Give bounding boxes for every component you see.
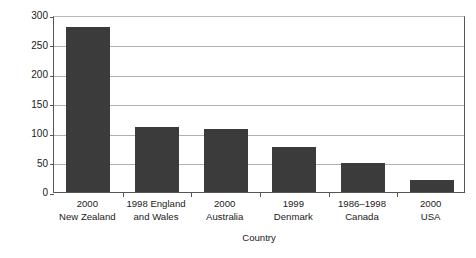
bar[interactable] bbox=[341, 163, 385, 193]
x-axis-tick-mark bbox=[123, 192, 124, 197]
y-axis-tick-label: 250 bbox=[22, 41, 48, 51]
x-axis-category-label-country: and Wales bbox=[122, 211, 191, 224]
plot-area bbox=[53, 16, 465, 193]
x-axis-category-label: 1999Denmark bbox=[259, 198, 328, 223]
x-axis-category-label-year: 1998 England bbox=[122, 198, 191, 211]
y-axis-tick-label: 200 bbox=[22, 70, 48, 80]
x-axis-title: Country bbox=[53, 232, 465, 243]
bar[interactable] bbox=[410, 180, 454, 192]
bar[interactable] bbox=[204, 129, 248, 192]
y-axis-tick-mark bbox=[50, 194, 54, 195]
bar-chart-figure: Rate /100,000 050100150200250300 2000New… bbox=[0, 0, 476, 258]
x-axis-category-label-country: Australia bbox=[190, 211, 259, 224]
y-axis-tick-label: 100 bbox=[22, 129, 48, 139]
x-axis-category-label-country: USA bbox=[396, 211, 465, 224]
bar[interactable] bbox=[135, 127, 179, 192]
x-axis-category-label: 2000USA bbox=[396, 198, 465, 223]
y-axis-tick-label: 0 bbox=[22, 188, 48, 198]
x-axis-category-label: 1986–1998Canada bbox=[328, 198, 397, 223]
bar[interactable] bbox=[66, 27, 110, 192]
x-axis-category-label-year: 1999 bbox=[259, 198, 328, 211]
x-axis-category-label-year: 2000 bbox=[396, 198, 465, 211]
y-axis-tick-label: 300 bbox=[22, 11, 48, 21]
y-axis-tick-labels: 050100150200250300 bbox=[14, 0, 48, 258]
bar-series bbox=[54, 17, 464, 192]
x-axis-category-label-country: New Zealand bbox=[53, 211, 122, 224]
x-axis-category-label-year: 1986–1998 bbox=[328, 198, 397, 211]
x-axis-tick-mark bbox=[329, 192, 330, 197]
x-axis-tick-mark bbox=[397, 192, 398, 197]
y-axis-tick-label: 50 bbox=[22, 159, 48, 169]
bar[interactable] bbox=[272, 147, 316, 192]
x-axis-category-label-year: 2000 bbox=[53, 198, 122, 211]
x-axis-category-label-year: 2000 bbox=[190, 198, 259, 211]
x-axis-category-label: 2000Australia bbox=[190, 198, 259, 223]
x-axis-category-label: 1998 Englandand Wales bbox=[122, 198, 191, 223]
x-axis-category-label-country: Denmark bbox=[259, 211, 328, 224]
x-axis-category-label-country: Canada bbox=[328, 211, 397, 224]
x-axis-tick-labels: 2000New Zealand1998 Englandand Wales2000… bbox=[53, 198, 465, 232]
y-axis-tick-label: 150 bbox=[22, 100, 48, 110]
x-axis-tick-mark bbox=[191, 192, 192, 197]
x-axis-tick-mark bbox=[260, 192, 261, 197]
x-axis-category-label: 2000New Zealand bbox=[53, 198, 122, 223]
